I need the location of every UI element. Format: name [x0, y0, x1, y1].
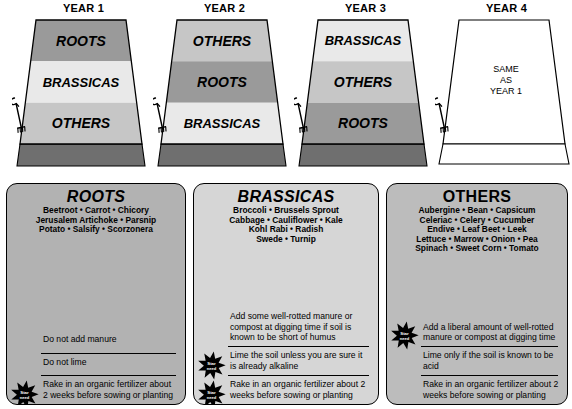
plot-band-label: ROOTS [56, 33, 106, 49]
year-plots-row: YEAR 1ROOTSBRASSICASOTHERSYEAR 2OTHERSRO… [0, 0, 572, 180]
vegetable-list: Beetroot • Carrot • ChicoryJerusalem Art… [7, 205, 185, 235]
rule-divider [421, 346, 558, 347]
plot-base-front [299, 144, 427, 166]
crop-rotation-diagram: YEAR 1ROOTSBRASSICASOTHERSYEAR 2OTHERSRO… [0, 0, 572, 409]
star-badge-line1: Star [400, 330, 409, 335]
rule-text: Rake in an organic fertilizer about 2 we… [387, 375, 567, 404]
year-plot-1: YEAR 1ROOTSBRASSICASOTHERS [12, 0, 155, 180]
rule-divider [228, 346, 369, 347]
year-plot-3: YEAR 3BRASSICASOTHERSROOTS [294, 0, 437, 180]
crop-care-rule: StarneedRake in an organic fertilizer ab… [7, 375, 185, 404]
crop-panel-title: BRASSICAS [194, 188, 378, 205]
vegetable-list: Broccoli • Brussels SproutCabbage • Caul… [194, 205, 378, 244]
star-badge-line1: Star [20, 390, 29, 395]
plot-band-label: OTHERS [334, 74, 393, 90]
star-badge-line1: Star [207, 361, 216, 366]
crop-panel-header: BRASSICASBroccoli • Brussels SproutCabba… [194, 184, 378, 244]
star-badge-line1: Star [207, 390, 216, 395]
plot-base-front [439, 144, 569, 164]
vegetable-list-line: Potato • Salsify • Scorzonera [10, 225, 182, 235]
year-plot-title: YEAR 4 [435, 2, 572, 14]
garden-fork-icon [12, 98, 25, 132]
rule-divider [421, 375, 558, 376]
rule-text: Lime only if the soil is known to be aci… [387, 346, 567, 375]
year-plot-graphic: SAMEASYEAR 1 [435, 14, 572, 178]
year-plot-graphic: ROOTSBRASSICASOTHERS [12, 14, 155, 178]
star-badge-line2: need [207, 366, 217, 371]
crop-panel-title: ROOTS [7, 188, 185, 205]
year-plot-graphic: BRASSICASOTHERSROOTS [294, 14, 437, 178]
star-badge-line2: need [400, 335, 410, 340]
star-badge-line2: need [207, 395, 217, 400]
year-plot-title: YEAR 3 [294, 2, 437, 14]
crop-care-rule: StarneedLime the soil unless you are sur… [194, 346, 378, 375]
crop-panel-roots: ROOTSBeetroot • Carrot • ChicoryJerusale… [6, 183, 186, 405]
crop-group-panels-row: ROOTSBeetroot • Carrot • ChicoryJerusale… [0, 183, 572, 409]
crop-panel-header: ROOTSBeetroot • Carrot • ChicoryJerusale… [7, 184, 185, 235]
plot-base-front [17, 144, 145, 166]
crop-care-rule: Lime only if the soil is known to be aci… [387, 346, 567, 375]
crop-care-rule: StarneedRake in an organic fertilizer ab… [194, 375, 378, 404]
plot-band-label: BRASSICAS [325, 33, 402, 48]
year-plot-title: YEAR 2 [153, 2, 296, 14]
crop-care-rules: Add some well-rotted manure or compost a… [194, 308, 378, 404]
crop-care-rule: StarneedAdd a liberal amount of well-rot… [387, 319, 567, 347]
plot-empty-text-line: AS [500, 75, 512, 85]
rule-text: Add some well-rotted manure or compost a… [194, 308, 378, 346]
year-plot-2: YEAR 2OTHERSROOTSBRASSICAS [153, 0, 296, 180]
plot-band-label: ROOTS [197, 74, 247, 90]
rule-divider [228, 375, 369, 376]
plot-band-label: ROOTS [338, 115, 388, 131]
crop-care-rules: StarneedAdd a liberal amount of well-rot… [387, 319, 567, 404]
crop-panel-header: OTHERSAubergine • Bean • CapsicumCeleria… [387, 184, 567, 254]
star-need-badge: Starneed [390, 321, 419, 350]
vegetable-list-line: Swede • Turnip [197, 235, 375, 245]
garden-fork-icon [294, 98, 307, 132]
plot-band-label: OTHERS [52, 115, 111, 131]
rule-divider [41, 353, 176, 354]
plot-empty-text-line: YEAR 1 [490, 86, 522, 96]
rule-divider [41, 375, 176, 376]
garden-fork-icon [153, 98, 166, 132]
crop-care-rule: Do not add manure [7, 331, 185, 353]
crop-panel-others: OTHERSAubergine • Bean • CapsicumCeleria… [386, 183, 568, 405]
year-plot-title: YEAR 1 [12, 2, 155, 14]
garden-fork-icon [435, 98, 448, 132]
crop-care-rule: Add some well-rotted manure or compost a… [194, 308, 378, 346]
year-plot-4: YEAR 4SAMEASYEAR 1 [435, 0, 572, 180]
star-need-badge: Starneed [10, 380, 39, 405]
rule-text: Do not add manure [7, 331, 185, 348]
crop-care-rule: Rake in an organic fertilizer about 2 we… [387, 375, 567, 404]
star-badge-line2: need [20, 395, 30, 400]
rule-text: Do not lime [7, 353, 185, 371]
vegetable-list: Aubergine • Bean • CapsicumCeleriac • Ce… [387, 205, 567, 254]
plot-band-label: BRASSICAS [184, 116, 261, 131]
crop-care-rules: Do not add manureDo not limeStarneedRake… [7, 331, 185, 404]
plot-band-label: BRASSICAS [43, 75, 120, 90]
crop-panel-brassicas: BRASSICASBroccoli • Brussels SproutCabba… [193, 183, 379, 405]
year-plot-graphic: OTHERSROOTSBRASSICAS [153, 14, 296, 178]
plot-base-front [158, 144, 286, 166]
crop-care-rule: Do not lime [7, 353, 185, 375]
plot-band-label: OTHERS [193, 33, 252, 49]
vegetable-list-line: Spinach • Sweet Corn • Tomato [390, 244, 564, 254]
star-need-badge: Starneed [197, 380, 226, 405]
plot-empty-text-line: SAME [493, 64, 519, 74]
crop-panel-title: OTHERS [387, 188, 567, 205]
